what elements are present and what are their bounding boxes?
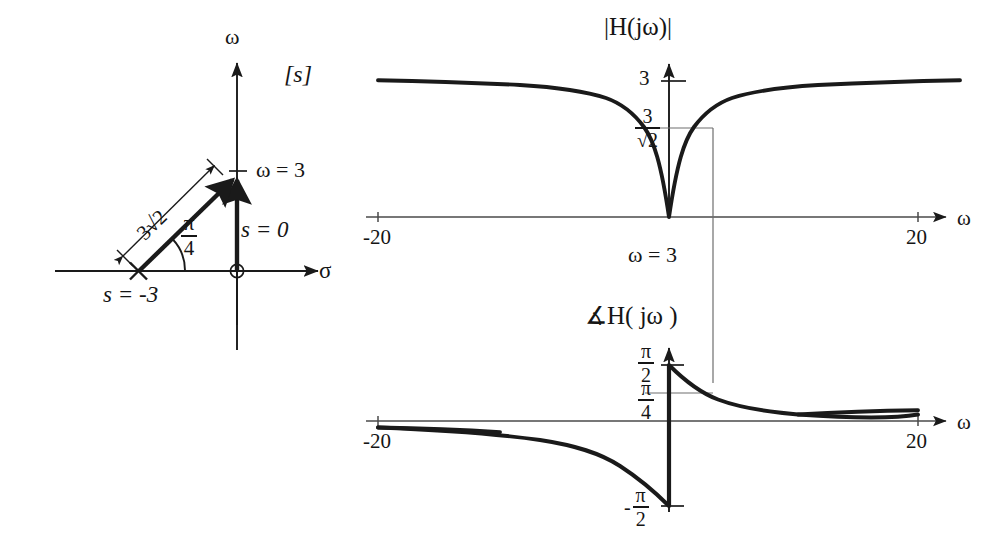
angle-denominator: 4 (182, 238, 197, 259)
phase-curve-positive-tail (798, 410, 918, 414)
magnitude-plot-title: |H(jω)| (604, 14, 672, 39)
phase-lower-sign: - (624, 497, 633, 517)
phase-xtick-label-left: -20 (363, 431, 391, 452)
s-plane-zero-label: s = 0 (241, 218, 288, 241)
magnitude-xtick-label-left: -20 (363, 227, 391, 248)
phase-plot (366, 348, 946, 512)
phase-lower-denominator: 2 (634, 509, 648, 529)
cutoff-numerator: 3 (640, 106, 654, 126)
s-plane-plane-label: [s] (284, 62, 312, 86)
s-plane-sigma-axis-label: σ (319, 259, 331, 282)
magnitude-ytick-label-3: 3 (639, 68, 650, 89)
phase-xaxis-label: ω (957, 412, 971, 433)
s-plane-omega3-label: ω = 3 (256, 159, 305, 181)
phase-ytick-label-neg-pi-over-2: - π 2 (624, 485, 649, 529)
magnitude-xaxis-label: ω (957, 208, 971, 229)
magnitude-ytick-label-cutoff: 3 √2 (635, 106, 660, 150)
s-plane-angle-label: π 4 (181, 213, 197, 259)
magnitude-xtick-label-right: 20 (906, 227, 927, 248)
s-plane-diagram (55, 63, 318, 350)
s-plane-omega-axis-label: ω (225, 26, 239, 48)
figure-vector-layer (0, 0, 987, 554)
magnitude-plot (366, 64, 960, 383)
phase-ytick-label-pi-over-4: π 4 (638, 378, 654, 422)
figure-canvas: ω [s] ω = 3 σ s = 0 s = -3 3√2 π 4 |H(jω… (0, 0, 987, 554)
phase-plot-title: ∡H( jω ) (585, 303, 678, 328)
angle-numerator: π (182, 213, 197, 234)
s-plane-pole-label: s = -3 (103, 283, 158, 306)
phase-mid-numerator: π (639, 378, 653, 398)
length-dimension-tick-start (117, 250, 133, 266)
length-dimension-tick-end (207, 159, 223, 175)
phase-upper-numerator: π (639, 341, 653, 361)
phase-xtick-label-right: 20 (906, 431, 927, 452)
magnitude-cutoff-annotation: ω = 3 (628, 244, 677, 266)
phase-lower-numerator: π (634, 485, 648, 505)
phase-mid-denominator: 4 (639, 402, 653, 422)
cutoff-denominator: √2 (635, 130, 660, 150)
